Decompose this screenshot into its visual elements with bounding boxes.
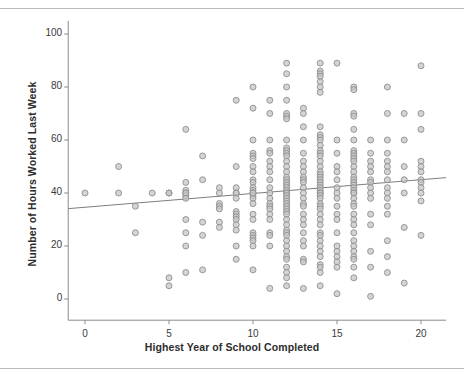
- scatter-point-group: [82, 60, 424, 299]
- scatter-point: [267, 177, 273, 183]
- scatter-point: [300, 150, 306, 156]
- scatter-point: [334, 291, 340, 297]
- scatter-point: [334, 137, 340, 143]
- scatter-point: [384, 195, 390, 201]
- scatter-point: [216, 190, 222, 196]
- y-axis-tick-label: 60: [30, 133, 62, 144]
- scatter-point: [317, 222, 323, 228]
- scatter-point: [401, 190, 407, 196]
- scatter-point: [267, 217, 273, 223]
- scatter-point: [384, 169, 390, 175]
- scatter-point: [384, 254, 390, 260]
- figure-container: Number of Hours Worked Last Week Highest…: [0, 0, 464, 378]
- scatter-point: [368, 137, 374, 143]
- scatter-point: [368, 222, 374, 228]
- scatter-point: [300, 124, 306, 130]
- scatter-point: [267, 137, 273, 143]
- scatter-point: [267, 111, 273, 117]
- x-axis-title: Highest Year of School Completed: [0, 341, 464, 353]
- scatter-point: [233, 164, 239, 170]
- scatter-point: [334, 230, 340, 236]
- scatter-point: [418, 190, 424, 196]
- x-axis-tick-label: 0: [70, 328, 100, 339]
- scatter-point: [284, 60, 290, 66]
- scatter-point: [233, 195, 239, 201]
- scatter-point: [300, 259, 306, 265]
- scatter-point: [300, 285, 306, 291]
- scatter-point: [116, 190, 122, 196]
- scatter-point: [233, 256, 239, 262]
- scatter-point: [384, 211, 390, 217]
- scatter-point: [401, 280, 407, 286]
- scatter-point: [200, 232, 206, 238]
- scatter-point: [334, 203, 340, 209]
- scatter-point: [368, 293, 374, 299]
- scatter-point: [401, 137, 407, 143]
- scatter-point: [250, 267, 256, 273]
- scatter-point: [200, 177, 206, 183]
- scatter-point: [267, 97, 273, 103]
- scatter-point: [384, 203, 390, 209]
- scatter-point: [317, 270, 323, 276]
- y-axis-tick-label: 20: [30, 239, 62, 250]
- scatter-point: [284, 137, 290, 143]
- scatter-point: [284, 84, 290, 90]
- scatter-point: [351, 87, 357, 93]
- scatter-point: [250, 190, 256, 196]
- scatter-point: [267, 169, 273, 175]
- scatter-point: [300, 243, 306, 249]
- scatter-point: [401, 177, 407, 183]
- scatter-point: [149, 190, 155, 196]
- scatter-point: [334, 264, 340, 270]
- scatter-point: [267, 150, 273, 156]
- scatter-point: [351, 256, 357, 262]
- scatter-point: [216, 224, 222, 230]
- scatter-point: [216, 206, 222, 212]
- scatter-point: [183, 217, 189, 223]
- scatter-point: [418, 63, 424, 69]
- y-axis-tick-label: 80: [30, 80, 62, 91]
- scatter-point: [183, 126, 189, 132]
- scatter-point: [334, 60, 340, 66]
- x-axis-tick-label: 15: [322, 328, 352, 339]
- scatter-point: [418, 111, 424, 117]
- scatter-point: [116, 164, 122, 170]
- scatter-point: [351, 203, 357, 209]
- scatter-point: [166, 283, 172, 289]
- scatter-point: [418, 198, 424, 204]
- scatter-point: [300, 137, 306, 143]
- scatter-point: [82, 190, 88, 196]
- scatter-point: [267, 243, 273, 249]
- x-axis-tick-label: 10: [238, 328, 268, 339]
- scatter-point: [334, 150, 340, 156]
- y-axis-tick-label: 0: [30, 292, 62, 303]
- scatter-point: [200, 153, 206, 159]
- scatter-point: [351, 230, 357, 236]
- scatter-point: [384, 84, 390, 90]
- scatter-point: [334, 195, 340, 201]
- scatter-point: [284, 256, 290, 262]
- scatter-point: [317, 89, 323, 95]
- scatter-point: [132, 203, 138, 209]
- scatter-point: [250, 169, 256, 175]
- scatter-point: [250, 201, 256, 207]
- scatter-point: [250, 105, 256, 111]
- scatter-point: [183, 243, 189, 249]
- scatter-point: [284, 275, 290, 281]
- x-axis-tick-label: 20: [406, 328, 436, 339]
- scatter-point: [368, 211, 374, 217]
- scatter-point: [284, 71, 290, 77]
- scatter-point: [384, 150, 390, 156]
- scatter-point: [284, 116, 290, 122]
- scatter-point: [183, 195, 189, 201]
- scatter-point: [384, 238, 390, 244]
- y-axis-tick-label: 100: [30, 27, 62, 38]
- scatter-point: [384, 177, 390, 183]
- scatter-point: [351, 113, 357, 119]
- scatter-point: [401, 164, 407, 170]
- scatter-point: [317, 60, 323, 66]
- scatter-point: [368, 150, 374, 156]
- scatter-point: [132, 230, 138, 236]
- scatter-point: [183, 230, 189, 236]
- scatter-point: [284, 283, 290, 289]
